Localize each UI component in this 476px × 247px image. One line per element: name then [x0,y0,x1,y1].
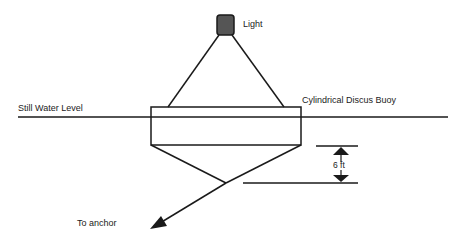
mast-left [168,35,219,107]
dimension-arrow-down [333,175,349,182]
anchor-arrowhead [150,216,167,229]
mast-right [232,35,284,107]
dimension-label: 6 ft [333,161,345,170]
dimension-arrow-up [333,147,349,155]
light-label: Light [243,20,263,29]
water-level-label: Still Water Level [18,104,83,113]
buoy-hull [151,107,301,145]
anchor-line [160,183,226,223]
buoy-diagram [0,0,476,247]
keel-left [151,145,226,183]
anchor-label: To anchor [77,219,117,228]
buoy-label: Cylindrical Discus Buoy [302,96,396,105]
keel-right [226,145,301,183]
light-box [217,15,234,35]
